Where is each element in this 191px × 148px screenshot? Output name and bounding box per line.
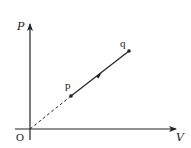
point-q (127, 49, 131, 53)
process-line-p-to-q (71, 51, 129, 96)
v-axis-label: V (176, 131, 185, 144)
p-axis-label: P (16, 20, 25, 33)
point-p (69, 94, 73, 98)
point-p-label: p (65, 79, 71, 91)
origin-label: O (16, 131, 24, 143)
dashed-extension-line (30, 96, 71, 129)
point-q-label: q (120, 37, 126, 49)
pv-diagram: P V O p q (0, 0, 191, 148)
